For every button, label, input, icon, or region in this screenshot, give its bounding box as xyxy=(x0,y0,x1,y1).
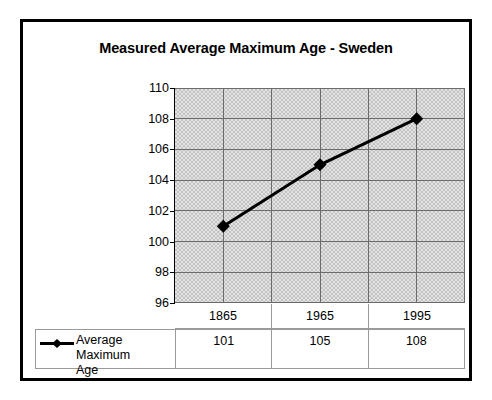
x-axis-label-row: 1865 1965 1995 xyxy=(175,304,465,329)
plot-wrapper: 110 108 106 104 102 100 98 96 xyxy=(175,88,465,303)
chart-title: Measured Average Maximum Age - Sweden xyxy=(23,40,469,56)
y-tick-label-98: 98 xyxy=(129,265,169,279)
legend-cell: Average Maximum Age xyxy=(36,330,176,368)
y-tick-label-108: 108 xyxy=(129,112,169,126)
y-tick-label-106: 106 xyxy=(129,142,169,156)
vertical-gridlines xyxy=(223,88,416,303)
legend-label-line2: Age xyxy=(76,363,171,378)
y-tick-label-102: 102 xyxy=(129,204,169,218)
y-tick-label-104: 104 xyxy=(129,173,169,187)
y-tick-label-110: 110 xyxy=(129,81,169,95)
x-axis-label-1965: 1965 xyxy=(272,304,369,329)
y-tick-label-96: 96 xyxy=(129,296,169,310)
legend-label-line1: Average Maximum xyxy=(76,333,171,363)
chart-figure: Measured Average Maximum Age - Sweden 11… xyxy=(20,19,472,381)
y-tick-label-100: 100 xyxy=(129,235,169,249)
table-cell-1965: 105 xyxy=(272,330,368,368)
x-axis-label-1995: 1995 xyxy=(369,304,465,329)
x-axis-label-1865: 1865 xyxy=(175,304,272,329)
legend-marker-icon xyxy=(40,339,74,348)
table-cell-1865: 101 xyxy=(176,330,272,368)
plot-svg xyxy=(175,88,465,303)
data-table: Average Maximum Age 101 105 108 xyxy=(35,329,465,369)
table-cell-1995: 108 xyxy=(369,330,464,368)
data-point-1995 xyxy=(410,112,423,125)
